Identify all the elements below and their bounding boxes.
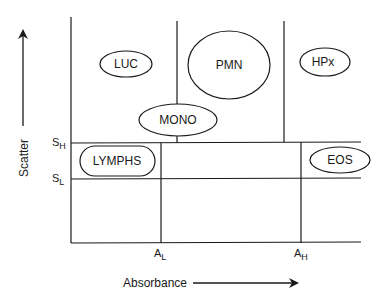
region-luc: LUC [100, 51, 152, 77]
svg-text:PMN: PMN [216, 58, 243, 72]
region-mono: MONO [139, 104, 217, 136]
absorbance-axis-label: Absorbance [123, 276, 187, 290]
svg-text:HPx: HPx [312, 55, 335, 69]
ah-label: AH [294, 247, 308, 262]
scatter-axis-label: Scatter [17, 139, 31, 177]
region-pmn: PMN [188, 31, 270, 99]
svg-text:LUC: LUC [114, 57, 138, 71]
sl-label: SL [52, 172, 64, 187]
svg-text:AH: AH [294, 247, 308, 262]
sh-threshold-line [71, 142, 361, 143]
cytogram-diagram: Scatter Absorbance SH SL AL AH LUC [0, 0, 390, 305]
region-lymphs: LYMPHS [80, 146, 155, 176]
sh-label: SH [52, 136, 66, 151]
svg-text:AL: AL [154, 247, 166, 262]
svg-text:LYMPHS: LYMPHS [93, 154, 141, 168]
region-hpx: HPx [300, 48, 350, 76]
svg-text:EOS: EOS [327, 153, 352, 167]
svg-text:SL: SL [52, 172, 64, 187]
al-label: AL [154, 247, 166, 262]
sl-threshold-line [71, 178, 361, 179]
region-eos: EOS [310, 147, 370, 173]
svg-text:MONO: MONO [159, 113, 196, 127]
svg-text:SH: SH [52, 136, 66, 151]
